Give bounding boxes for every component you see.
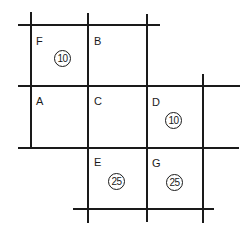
grid-line-h1 — [18, 24, 160, 26]
grid-line-h3 — [18, 147, 239, 149]
grid-line-v1 — [30, 12, 32, 148]
cell-label-f: F — [36, 36, 43, 47]
grid-line-v3 — [146, 14, 148, 222]
circled-value-e: 25 — [108, 173, 125, 190]
circled-value-d: 10 — [165, 112, 182, 129]
cell-grid-diagram: F B A C D E G 10 10 25 25 — [0, 0, 248, 234]
cell-label-b: B — [94, 36, 101, 47]
cell-label-d: D — [152, 97, 160, 108]
grid-line-h2 — [18, 85, 240, 87]
grid-line-v4 — [202, 74, 204, 223]
cell-label-c: C — [94, 96, 102, 107]
circled-value-g: 25 — [166, 174, 183, 191]
cell-label-g: G — [152, 158, 161, 169]
cell-label-e: E — [94, 157, 101, 168]
cell-label-a: A — [36, 96, 43, 107]
grid-line-h4 — [73, 208, 214, 210]
circled-value-f: 10 — [54, 50, 71, 67]
grid-line-v2 — [87, 13, 89, 223]
